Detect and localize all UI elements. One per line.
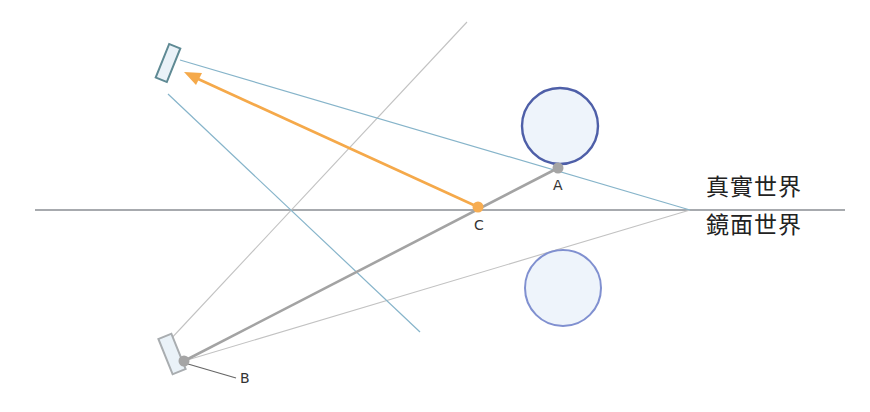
- real-world-label: 真實世界: [706, 176, 802, 199]
- mirror-sphere: [525, 250, 601, 326]
- real-camera: [156, 44, 181, 82]
- point-c-label: C: [474, 218, 484, 232]
- mirror-camera: [158, 334, 185, 374]
- point-a-marker: [553, 163, 564, 174]
- real-camera-view-line-bottom: [168, 94, 420, 332]
- point-c-marker: [473, 202, 484, 213]
- point-b-leader: [188, 364, 236, 378]
- reflection-arrow: [196, 78, 478, 207]
- point-b-label: B: [240, 371, 250, 385]
- mirror-diagram: [0, 0, 870, 412]
- mirror-camera-view-line-lower: [184, 210, 690, 361]
- real-sphere: [522, 88, 598, 164]
- point-a-label: A: [553, 178, 563, 192]
- point-b-marker: [179, 356, 190, 367]
- mirror-world-label: 鏡面世界: [706, 214, 802, 237]
